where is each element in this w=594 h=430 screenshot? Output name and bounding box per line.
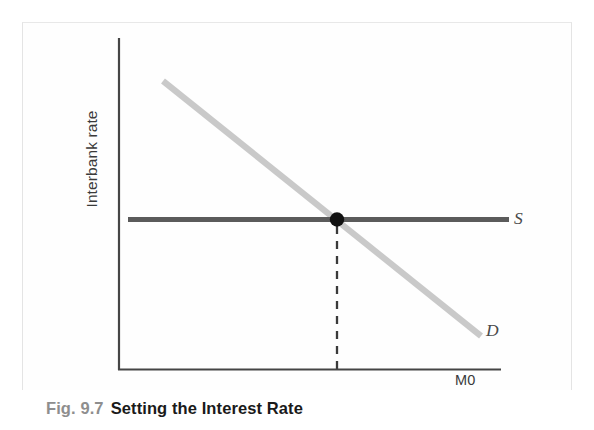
equilibrium-point xyxy=(330,212,344,226)
y-axis-label: Interbank rate xyxy=(83,59,101,259)
x-axis-label: M0 xyxy=(455,372,476,388)
figure-number: Fig. 9.7 xyxy=(46,399,104,417)
demand-curve xyxy=(163,81,481,336)
figure-plot-region: Interbank rate M0 S D xyxy=(0,0,594,395)
figure-page: Interbank rate M0 S D Fig. 9.7Setting th… xyxy=(0,0,594,430)
figure-title: Setting the Interest Rate xyxy=(111,399,303,417)
supply-curve-label: S xyxy=(514,208,523,229)
demand-curve-label: D xyxy=(486,320,499,341)
figure-caption: Fig. 9.7Setting the Interest Rate xyxy=(46,399,303,418)
